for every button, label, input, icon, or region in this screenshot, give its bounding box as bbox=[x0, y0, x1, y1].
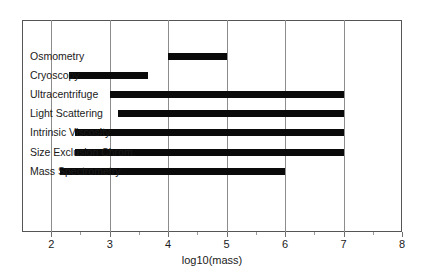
x-tick-7 bbox=[344, 232, 345, 237]
x-minor-tick bbox=[80, 232, 81, 235]
x-tick-label-6: 6 bbox=[274, 238, 296, 251]
x-tick-label-4: 4 bbox=[157, 238, 179, 251]
chart-figure: OsmometryCryoscopyUltracentrifugeLight S… bbox=[0, 0, 425, 280]
category-labels-group: OsmometryCryoscopyUltracentrifugeLight S… bbox=[22, 20, 402, 232]
x-tick-label-2: 2 bbox=[40, 238, 62, 251]
x-minor-tick bbox=[197, 232, 198, 235]
category-label-ultracentrifuge: Ultracentrifuge bbox=[30, 89, 98, 100]
x-minor-tick bbox=[139, 232, 140, 235]
x-tick-6 bbox=[285, 232, 286, 237]
x-axis-title: log10(mass) bbox=[22, 254, 402, 267]
x-tick-8 bbox=[402, 232, 403, 237]
x-tick-label-3: 3 bbox=[99, 238, 121, 251]
x-minor-tick bbox=[256, 232, 257, 235]
x-tick-5 bbox=[227, 232, 228, 237]
x-tick-4 bbox=[168, 232, 169, 237]
category-label-mass-spectrometry: Mass Spectrometry bbox=[30, 166, 120, 177]
category-label-size-exclusion-chrom: Size Exclusion Chrom. bbox=[30, 147, 136, 158]
x-tick-label-7: 7 bbox=[333, 238, 355, 251]
x-minor-tick bbox=[314, 232, 315, 235]
category-label-osmometry: Osmometry bbox=[30, 51, 84, 62]
category-label-cryoscopy: Cryoscopy bbox=[30, 70, 80, 81]
category-label-intrinsic-viscosity: Intrinsic Viscosity bbox=[30, 127, 110, 138]
x-axis: 2345678 log10(mass) bbox=[22, 232, 402, 280]
category-label-light-scattering: Light Scattering bbox=[30, 108, 103, 119]
x-tick-2 bbox=[51, 232, 52, 237]
x-tick-3 bbox=[110, 232, 111, 237]
x-minor-tick bbox=[373, 232, 374, 235]
x-tick-label-8: 8 bbox=[391, 238, 413, 251]
x-tick-label-5: 5 bbox=[216, 238, 238, 251]
